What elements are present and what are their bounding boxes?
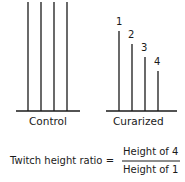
twitch-label-2: 2 [128, 29, 134, 40]
twitch-label-1: 1 [116, 16, 122, 27]
curarized-label: Curarized [113, 115, 164, 127]
twitch-label-3: 3 [141, 42, 147, 53]
formula-lhs: Twitch height ratio = [10, 155, 114, 166]
formula-denominator: Height of 1 [123, 164, 178, 175]
control-label: Control [29, 115, 67, 127]
formula-numerator: Height of 4 [123, 146, 178, 157]
twitch-label-4: 4 [154, 56, 160, 67]
